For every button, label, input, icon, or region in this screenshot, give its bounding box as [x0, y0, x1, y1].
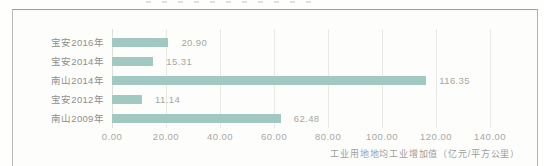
x-tick-label: 40.00 [207, 131, 233, 142]
bar-row: 南山2014年 116.35 [112, 71, 536, 90]
x-tick-label: 0.00 [102, 131, 123, 142]
x-tick-label: 60.00 [261, 131, 287, 142]
x-tick-label: 20.00 [153, 131, 179, 142]
category-label: 宝安2016年 [13, 33, 104, 52]
chart-panel: 宝安2016年 20.90 宝安2014年 15.31 南山2014年 116.… [12, 9, 538, 166]
x-tick-label: 140.00 [474, 131, 506, 142]
bar-rows: 宝安2016年 20.90 宝安2014年 15.31 南山2014年 116.… [112, 33, 536, 128]
bar [112, 114, 281, 123]
category-label: 宝安2012年 [13, 90, 104, 109]
category-label: 宝安2014年 [13, 52, 104, 71]
value-label: 11.14 [155, 94, 180, 105]
value-label: 62.48 [294, 113, 320, 124]
bar-chart-plot-area: 宝安2016年 20.90 宝安2014年 15.31 南山2014年 116.… [112, 29, 536, 128]
x-axis: 0.00 20.00 40.00 60.00 80.00 100.00 120.… [112, 131, 536, 143]
x-tick-label: 100.00 [366, 131, 398, 142]
bar [112, 76, 426, 85]
x-tick-label: 120.00 [420, 131, 452, 142]
bar [112, 57, 153, 66]
clipped-text-artifact [146, 1, 321, 3]
bar [112, 38, 168, 47]
bar-row: 宝安2016年 20.90 [112, 33, 536, 52]
bar [112, 95, 142, 104]
category-label: 南山2009年 [13, 109, 104, 128]
value-label: 20.90 [181, 37, 207, 48]
value-label: 15.31 [166, 56, 192, 67]
x-tick-label: 80.00 [315, 131, 341, 142]
bar-row: 宝安2014年 15.31 [112, 52, 536, 71]
category-label: 南山2014年 [13, 71, 104, 90]
value-label: 116.35 [439, 75, 470, 86]
bar-row: 南山2009年 62.48 [112, 109, 536, 128]
x-axis-title: 工业用地地均工业增加值（亿元/平方公里） [13, 147, 537, 160]
bar-row: 宝安2012年 11.14 [112, 90, 536, 109]
